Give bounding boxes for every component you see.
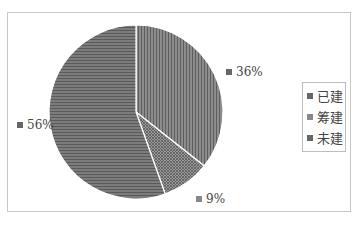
- legend-item-built: 已建: [307, 85, 345, 106]
- legend-label: 未建: [317, 128, 343, 147]
- unbuilt-swatch-icon: [17, 122, 23, 128]
- label-built: 36%: [226, 65, 263, 79]
- legend-item-planned: 筹建: [307, 106, 345, 127]
- legend: 已建 筹建 未建: [302, 82, 346, 152]
- label-unbuilt-text: 56%: [27, 118, 54, 132]
- planned-swatch-icon: [307, 114, 313, 120]
- label-built-text: 36%: [236, 65, 263, 79]
- unbuilt-swatch-icon: [307, 135, 313, 141]
- built-swatch-icon: [307, 93, 313, 99]
- label-unbuilt: 56%: [17, 118, 54, 132]
- built-swatch-icon: [226, 69, 232, 75]
- legend-label: 已建: [317, 86, 343, 105]
- legend-item-unbuilt: 未建: [307, 127, 345, 148]
- legend-label: 筹建: [317, 107, 343, 126]
- pie-slices: [49, 25, 223, 199]
- planned-swatch-icon: [196, 196, 202, 202]
- label-planned-text: 9%: [206, 192, 225, 206]
- label-planned: 9%: [196, 192, 225, 206]
